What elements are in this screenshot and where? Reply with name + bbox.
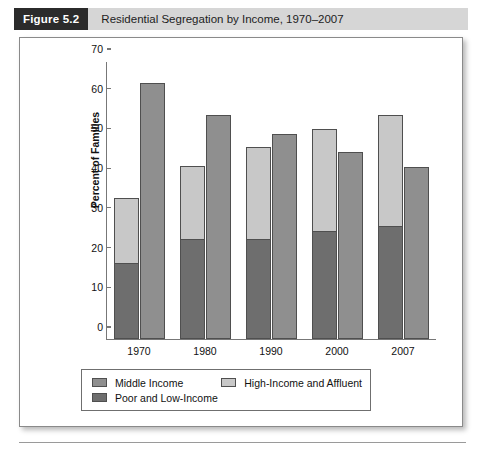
figure-card: Percent of Families 010203040506070 1970… [19, 37, 463, 427]
y-axis-tick-mark [107, 168, 111, 169]
bar-group [312, 62, 363, 339]
legend-swatch-poor-low-income [92, 393, 107, 402]
y-axis-tick-mark [107, 48, 111, 49]
bar-segment-poor-low-income [115, 264, 138, 338]
bar-group [114, 62, 165, 339]
bar-segment-high-income [379, 116, 402, 226]
legend-swatch-middle-income [92, 378, 107, 387]
figure-number: Figure 5.2 [14, 8, 88, 30]
y-axis-tick-label: 30 [87, 202, 107, 214]
y-axis-tick-label: 60 [87, 83, 107, 95]
chart-legend: Middle Income High-Income and Affluent P… [81, 369, 371, 411]
page-divider [19, 442, 466, 443]
stacked-bar[interactable] [180, 166, 205, 339]
x-axis-tick-label: 1970 [113, 345, 165, 361]
y-axis-tick-mark [107, 128, 111, 129]
y-axis-tick: 30 [87, 202, 107, 214]
y-axis-tick: 50 [87, 122, 107, 134]
bar-group [378, 62, 429, 339]
legend-swatch-high-income [221, 378, 236, 387]
y-axis-tick-label: 0 [87, 321, 107, 333]
y-axis-tick-mark [107, 247, 111, 248]
y-axis-tick: 10 [87, 281, 107, 293]
stacked-bar[interactable] [378, 115, 403, 339]
x-axis-tick-label: 2007 [377, 345, 429, 361]
bar-middle-income[interactable] [272, 134, 297, 339]
y-axis-tick: 20 [87, 242, 107, 254]
x-axis-labels: 19701980199020002007 [106, 345, 436, 361]
stacked-bar[interactable] [312, 129, 337, 339]
stacked-bar[interactable] [114, 198, 139, 339]
chart-plot-wrapper: Percent of Families 010203040506070 1970… [61, 62, 436, 362]
y-axis-tick: 60 [87, 83, 107, 95]
bar-segment-high-income [181, 167, 204, 240]
y-axis-tick-label: 20 [87, 242, 107, 254]
figure-header: Figure 5.2 Residential Segregation by In… [14, 8, 468, 30]
legend-row-2: Poor and Low-Income [92, 390, 362, 405]
plot-area: 010203040506070 [106, 62, 436, 340]
legend-item-poor-low-income: Poor and Low-Income [92, 392, 244, 404]
bar-segment-high-income [247, 148, 270, 240]
y-axis-tick-label: 70 [87, 43, 107, 55]
legend-row-1: Middle Income High-Income and Affluent [92, 375, 362, 390]
legend-label-middle-income: Middle Income [115, 377, 183, 389]
legend-label-high-income: High-Income and Affluent [244, 377, 362, 389]
y-axis-tick: 70 [87, 43, 107, 55]
legend-item-middle-income: Middle Income [92, 377, 221, 389]
bar-middle-income[interactable] [404, 167, 429, 339]
y-axis-tick-label: 50 [87, 122, 107, 134]
y-axis-tick: 0 [87, 321, 107, 333]
y-axis-tick-mark [107, 326, 111, 327]
legend-label-poor-low-income: Poor and Low-Income [115, 392, 218, 404]
bar-segment-high-income [115, 199, 138, 264]
stacked-bar[interactable] [246, 147, 271, 339]
bar-segment-poor-low-income [247, 240, 270, 338]
bar-group [180, 62, 231, 339]
bar-groups [107, 62, 436, 339]
bar-segment-high-income [313, 130, 336, 231]
bar-segment-poor-low-income [181, 240, 204, 338]
y-axis-tick-mark [107, 88, 111, 89]
y-axis-tick-mark [107, 207, 111, 208]
figure-container: Figure 5.2 Residential Segregation by In… [0, 0, 485, 450]
bar-middle-income[interactable] [140, 83, 165, 339]
y-axis-tick: 40 [87, 162, 107, 174]
y-axis-tick-label: 10 [87, 281, 107, 293]
bar-middle-income[interactable] [206, 115, 231, 339]
figure-title: Residential Segregation by Income, 1970–… [88, 8, 343, 30]
bar-segment-poor-low-income [379, 227, 402, 338]
x-axis-tick-label: 1990 [245, 345, 297, 361]
bar-segment-poor-low-income [313, 232, 336, 338]
x-axis-tick-label: 1980 [179, 345, 231, 361]
x-axis-tick-label: 2000 [311, 345, 363, 361]
legend-item-high-income: High-Income and Affluent [221, 377, 362, 389]
bar-middle-income[interactable] [338, 152, 363, 339]
y-axis-tick-label: 40 [87, 162, 107, 174]
y-axis-tick-mark [107, 287, 111, 288]
bar-group [246, 62, 297, 339]
